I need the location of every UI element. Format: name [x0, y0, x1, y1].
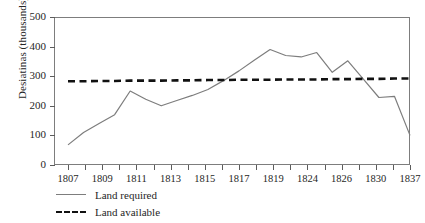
- x-tick-mark: [119, 165, 120, 170]
- y-tick-mark: [50, 47, 55, 48]
- x-tick-mark: [68, 165, 69, 170]
- x-tick-mark: [136, 165, 137, 170]
- x-tick-mark: [325, 165, 326, 170]
- y-tick-mark: [50, 106, 55, 107]
- y-tick-mark: [50, 135, 55, 136]
- legend-label-land-required: Land required: [95, 189, 157, 201]
- legend-item-land-required: Land required: [56, 186, 160, 203]
- x-tick-mark: [205, 165, 206, 170]
- x-tick-mark: [171, 165, 172, 170]
- x-tick-mark: [256, 165, 257, 170]
- x-tick-mark: [410, 165, 411, 170]
- x-tick-mark: [222, 165, 223, 170]
- series-line-land-available: [68, 79, 410, 82]
- series-line-land-required: [68, 50, 410, 145]
- y-tick-mark: [50, 17, 55, 18]
- y-tick-mark: [50, 76, 55, 77]
- x-tick-mark: [85, 165, 86, 170]
- x-tick-mark: [342, 165, 343, 170]
- x-tick-mark: [102, 165, 103, 170]
- x-tick-mark: [307, 165, 308, 170]
- x-tick-mark: [239, 165, 240, 170]
- x-tick-mark: [154, 165, 155, 170]
- legend-label-land-available: Land available: [95, 206, 160, 218]
- x-tick-mark: [376, 165, 377, 170]
- x-tick-mark: [273, 165, 274, 170]
- x-tick-mark: [290, 165, 291, 170]
- chart-legend: Land required Land available: [56, 186, 160, 220]
- x-tick-mark: [188, 165, 189, 170]
- y-tick-mark: [50, 165, 55, 166]
- solid-line-swatch-icon: [56, 194, 86, 195]
- x-tick-mark: [359, 165, 360, 170]
- legend-item-land-available: Land available: [56, 203, 160, 220]
- dashed-line-swatch-icon: [56, 211, 86, 213]
- x-tick-mark: [393, 165, 394, 170]
